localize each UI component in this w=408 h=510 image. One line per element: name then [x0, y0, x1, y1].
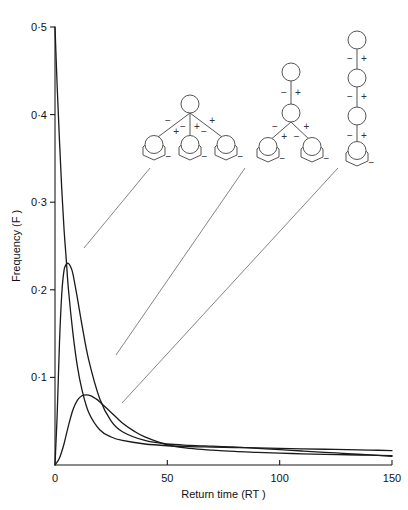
y-tick-label: 0·2 — [31, 284, 47, 296]
internal-circle — [348, 107, 366, 125]
leaf-circle — [217, 136, 235, 154]
figure-root: 0·10·20·30·40·5050100150Return time (RT … — [0, 0, 408, 510]
leaf-minus-sign: − — [166, 151, 172, 162]
edge-minus-sign: − — [294, 131, 300, 142]
edge-plus-sign: + — [361, 91, 367, 102]
leaf-circle — [303, 138, 321, 156]
leaf-circle — [181, 136, 199, 154]
figure-canvas: 0·10·20·30·40·5050100150Return time (RT … — [0, 0, 408, 510]
leader-line-diagram-3 — [122, 168, 338, 403]
leaf-node: − — [143, 136, 172, 162]
internal-circle — [282, 104, 300, 122]
x-tick-label: 150 — [383, 472, 401, 484]
edge-plus-sign: + — [281, 131, 287, 142]
root-circle — [181, 95, 199, 113]
edge-minus-sign: − — [180, 121, 186, 132]
leaf-minus-sign: − — [280, 153, 286, 164]
leaf-node: − — [179, 136, 208, 162]
y-tick-label: 0·1 — [31, 371, 47, 383]
leader-line-diagram-1 — [84, 168, 150, 248]
leaf-minus-sign: − — [369, 157, 375, 168]
leaf-node: − — [346, 142, 375, 168]
leaf-minus-sign: − — [324, 153, 330, 164]
x-tick-label: 0 — [52, 472, 58, 484]
root-circle — [282, 63, 300, 81]
y-tick-label: 0·5 — [31, 21, 47, 33]
leader-line-diagram-2 — [116, 168, 245, 355]
leader-line-group — [84, 168, 338, 403]
root-circle — [348, 31, 366, 49]
y-tick-label: 0·3 — [31, 196, 47, 208]
leaf-minus-sign: − — [202, 151, 208, 162]
edge-minus-sign: − — [347, 130, 353, 141]
edge-minus-sign: − — [201, 126, 207, 137]
x-tick-label: 100 — [270, 472, 288, 484]
edge-plus-sign: + — [361, 53, 367, 64]
y-axis-title: Frequency (F ) — [10, 210, 22, 282]
y-tick-group: 0·10·20·30·40·5 — [31, 21, 55, 383]
diagram-group: −−−−+−+−+−−−+−+−+−−+−+−+ — [143, 31, 375, 168]
curve-3 — [55, 395, 392, 465]
leaf-node: − — [301, 138, 330, 164]
edge-plus-sign: + — [173, 126, 179, 137]
leaf-minus-sign: − — [238, 151, 244, 162]
diagram-1: −−−−+−+−+ — [143, 95, 244, 162]
diagram-3: −−+−+−+ — [346, 31, 375, 168]
x-tick-group: 050100150 — [52, 460, 401, 484]
edge-plus-sign: + — [295, 87, 301, 98]
leaf-circle — [348, 142, 366, 160]
axes: 0·10·20·30·40·5050100150Return time (RT … — [10, 21, 401, 500]
x-axis-title: Return time (RT ) — [181, 488, 266, 500]
edge-minus-sign: − — [347, 91, 353, 102]
diagram-2: −−−+−+−+ — [257, 63, 330, 164]
curve-1 — [55, 27, 392, 451]
leaf-circle — [145, 136, 163, 154]
edge-minus-sign: − — [347, 53, 353, 64]
edge-minus-sign: − — [281, 87, 287, 98]
curve-group — [55, 27, 392, 465]
edge-minus-sign: − — [272, 121, 278, 132]
internal-circle — [348, 69, 366, 87]
leaf-circle — [259, 138, 277, 156]
x-tick-label: 50 — [161, 472, 173, 484]
edge-plus-sign: + — [194, 121, 200, 132]
edge-plus-sign: + — [303, 121, 309, 132]
edge-minus-sign: − — [165, 115, 171, 126]
y-tick-label: 0·4 — [31, 109, 47, 121]
leaf-node: − — [215, 136, 244, 162]
edge-plus-sign: + — [361, 130, 367, 141]
edge-plus-sign: + — [209, 115, 215, 126]
